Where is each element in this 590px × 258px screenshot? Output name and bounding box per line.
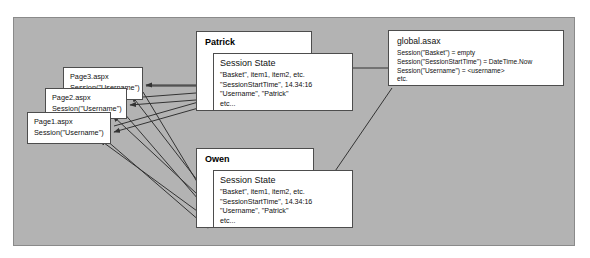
owen-name-label: Owen (205, 154, 230, 164)
owen-session-entry: "Basket", item1, item2, etc. (220, 188, 347, 198)
user-box-patrick[interactable]: Patrick Session State "Basket", item1, i… (196, 31, 312, 111)
global-asax-line: etc. (397, 75, 557, 84)
patrick-session-entry: "SessionStartTime", 14.34:16 (220, 81, 347, 91)
patrick-session-entry: etc... (220, 100, 347, 110)
session-state-diagram: Page3.aspx Session("Username") Page2.asp… (0, 0, 590, 258)
global-asax-line: Session("Basket") = empty (397, 49, 557, 58)
page1-file-label: Page1.aspx (34, 117, 104, 128)
owen-session-title: Session State (220, 174, 347, 186)
owen-session-entry: etc... (220, 217, 347, 227)
owen-session-state-box[interactable]: Session State "Basket", item1, item2, et… (213, 170, 353, 228)
patrick-session-entry: "Username", "Patrick" (220, 90, 347, 100)
patrick-session-state-box[interactable]: Session State "Basket", item1, item2, et… (213, 53, 353, 111)
page2-file-label: Page2.aspx (52, 93, 120, 104)
user-box-owen[interactable]: Owen Session State "Basket", item1, item… (196, 148, 314, 228)
global-asax-title: global.asax (397, 35, 557, 47)
page1-code-label: Session("Username") (34, 128, 104, 139)
owen-session-entries: "Basket", item1, item2, etc. "SessionSta… (220, 188, 347, 226)
owen-session-entry: "SessionStartTime", 14.34:16 (220, 198, 347, 208)
global-asax-code: Session("Basket") = empty Session("Sessi… (397, 49, 557, 84)
page3-file-label: Page3.aspx (70, 72, 136, 83)
global-asax-line: Session("SessionStartTime") = DateTime.N… (397, 58, 557, 67)
patrick-session-entries: "Basket", item1, item2, etc. "SessionSta… (220, 71, 347, 109)
patrick-session-title: Session State (220, 57, 347, 69)
patrick-name-label: Patrick (205, 37, 235, 47)
patrick-session-entry: "Basket", item1, item2, etc. (220, 71, 347, 81)
global-asax-box[interactable]: global.asax Session("Basket") = empty Se… (388, 30, 564, 86)
page-box-page1[interactable]: Page1.aspx Session("Username") (27, 112, 111, 144)
owen-session-entry: "Username", "Patrick" (220, 207, 347, 217)
global-asax-line: Session("Username") = <username> (397, 67, 557, 76)
